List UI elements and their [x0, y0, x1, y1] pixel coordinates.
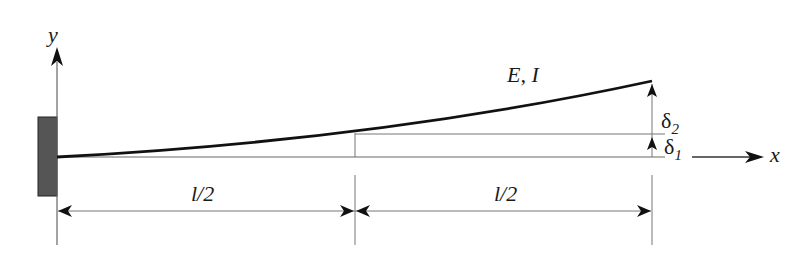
delta2-symbol: δ [661, 108, 671, 133]
delta1-subscript: 1 [674, 147, 682, 163]
y-axis-label: y [48, 24, 58, 46]
fixed-wall-support [38, 117, 57, 196]
delta1-label: δ1 [664, 136, 682, 158]
delta1-symbol: δ [664, 134, 674, 159]
right-span-label: l/2 [494, 183, 517, 205]
cantilever-beam-diagram [0, 0, 811, 259]
x-axis-label: x [770, 144, 780, 166]
delta2-label: δ2 [661, 110, 679, 132]
left-span-label: l/2 [191, 183, 214, 205]
material-properties-label: E, I [507, 64, 539, 86]
